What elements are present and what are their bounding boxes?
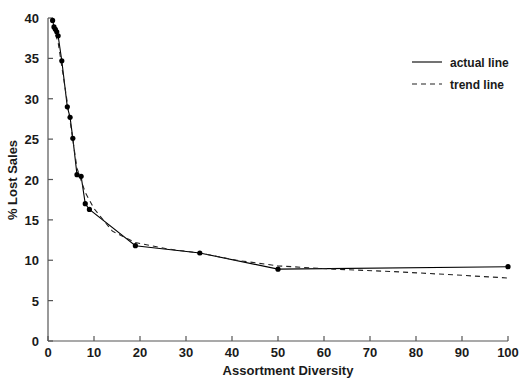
x-tick-label: 50 [271, 345, 285, 360]
chart-container: 0102030405060708090100 0510152025303540 … [0, 0, 528, 384]
x-tick-label: 70 [363, 345, 377, 360]
data-point-marker [50, 18, 55, 23]
y-tick-label: 25 [25, 132, 39, 147]
x-tick-label: 30 [179, 345, 193, 360]
data-point-marker [197, 250, 202, 255]
y-tick-label: 5 [32, 294, 39, 309]
legend-label-actual: actual line [450, 56, 509, 70]
data-series [53, 20, 508, 278]
data-point-marker [79, 174, 84, 179]
x-tick-label: 10 [87, 345, 101, 360]
data-point-marker [70, 136, 75, 141]
y-tick-label: 10 [25, 253, 39, 268]
data-point-marker [59, 58, 64, 63]
y-tick-label: 30 [25, 92, 39, 107]
trend-line-path [53, 26, 508, 278]
y-tick-label: 20 [25, 173, 39, 188]
chart-legend: actual linetrend line [412, 56, 509, 92]
x-axis-title: Assortment Diversity [223, 363, 355, 378]
y-tick-label: 0 [32, 334, 39, 349]
data-point-marker [87, 207, 92, 212]
legend-label-trend: trend line [450, 78, 504, 92]
x-tick-label: 100 [497, 345, 519, 360]
y-tick-label: 40 [25, 11, 39, 26]
x-tick-label: 0 [44, 345, 51, 360]
x-tick-label: 60 [317, 345, 331, 360]
x-tick-label: 20 [133, 345, 147, 360]
axes [48, 18, 508, 341]
y-tick-labels: 0510152025303540 [25, 11, 39, 349]
line-chart: 0102030405060708090100 0510152025303540 … [0, 0, 528, 384]
data-point-marker [67, 115, 72, 120]
y-tick-label: 35 [25, 51, 39, 66]
x-tick-label: 40 [225, 345, 239, 360]
y-tick-label: 15 [25, 213, 39, 228]
x-tick-label: 90 [455, 345, 469, 360]
x-tick-label: 80 [409, 345, 423, 360]
data-point-marker [83, 201, 88, 206]
y-axis-title: % Lost Sales [5, 140, 20, 220]
data-point-marker [65, 104, 70, 109]
actual-line-path [53, 20, 508, 269]
x-tick-labels: 0102030405060708090100 [44, 345, 518, 360]
data-point-marker [133, 243, 138, 248]
axis-ticks [48, 18, 508, 341]
data-point-marker [56, 33, 61, 38]
data-point-marker [505, 264, 510, 269]
data-point-markers [50, 18, 511, 272]
data-point-marker [275, 267, 280, 272]
